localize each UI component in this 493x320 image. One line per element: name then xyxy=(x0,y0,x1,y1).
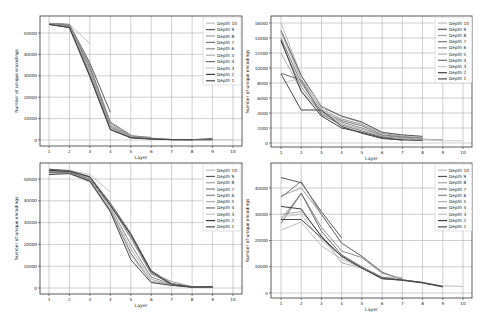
x-tick-label: 4 xyxy=(109,149,112,154)
y-tick-label: 4000 xyxy=(257,111,268,116)
x-tick-label: 10 xyxy=(460,301,466,306)
legend-label: Depth 2 xyxy=(449,218,466,223)
y-tick-label: 40000 xyxy=(255,186,269,191)
legend-label: Depth 10 xyxy=(217,21,237,26)
legend-label: Depth 10 xyxy=(217,168,237,173)
legend-label: Depth 7 xyxy=(449,39,466,44)
y-tick-label: 0 xyxy=(34,138,37,143)
legend-label: Depth 3 xyxy=(217,212,234,217)
x-tick-label: 1 xyxy=(48,149,51,154)
y-tick-label: 10000 xyxy=(24,264,38,269)
x-tick-label: 2 xyxy=(68,149,71,154)
legend-label: Depth 2 xyxy=(449,70,466,75)
legend-label: Depth 9 xyxy=(449,174,466,179)
legend: Depth 10Depth 9Depth 8Depth 7Depth 6Dept… xyxy=(435,17,472,83)
y-tick-label: 20000 xyxy=(255,238,269,243)
legend: Depth 10Depth 9Depth 8Depth 7Depth 6Dept… xyxy=(203,17,241,85)
legend-label: Depth 3 xyxy=(217,66,234,71)
legend-label: Depth 6 xyxy=(217,46,234,51)
y-tick-label: 12000 xyxy=(255,51,269,56)
x-tick-label: 7 xyxy=(401,301,404,306)
x-tick-label: 5 xyxy=(361,150,364,155)
legend-label: Depth 7 xyxy=(217,187,234,192)
legend-label: Depth 1 xyxy=(449,224,466,229)
x-tick-label: 5 xyxy=(361,301,364,306)
x-tick-label: 6 xyxy=(150,297,153,302)
x-axis-label: Layer xyxy=(365,156,378,161)
y-tick-label: 20000 xyxy=(24,95,38,100)
x-tick-labels: 12345678910 xyxy=(48,294,236,302)
y-tick-label: 0 xyxy=(265,141,268,146)
x-tick-label: 10 xyxy=(230,149,236,154)
y-tick-label: 50000 xyxy=(24,31,38,36)
y-tick-label: 20000 xyxy=(24,242,38,247)
y-tick-labels: 01000020000300004000050000 xyxy=(24,177,40,291)
legend-label: Depth 9 xyxy=(449,27,466,32)
legend-label: Depth 4 xyxy=(449,205,466,210)
y-tick-label: 30000 xyxy=(255,212,269,217)
series-depth-1 xyxy=(49,24,192,139)
x-tick-label: 7 xyxy=(170,297,173,302)
legend-label: Depth 6 xyxy=(449,45,466,50)
y-tick-label: 50000 xyxy=(24,177,38,182)
y-tick-label: 2000 xyxy=(257,126,268,131)
x-tick-label: 9 xyxy=(211,297,214,302)
x-tick-label: 1 xyxy=(280,150,283,155)
legend-label: Depth 10 xyxy=(449,21,469,26)
x-tick-label: 9 xyxy=(211,149,214,154)
x-tick-label: 9 xyxy=(441,301,444,306)
x-tick-label: 3 xyxy=(320,301,323,306)
x-tick-label: 7 xyxy=(401,150,404,155)
y-tick-label: 10000 xyxy=(24,116,38,121)
x-tick-label: 4 xyxy=(340,150,343,155)
legend-label: Depth 5 xyxy=(449,52,466,57)
y-tick-label: 6000 xyxy=(257,96,268,101)
x-tick-label: 3 xyxy=(89,297,92,302)
legend-label: Depth 1 xyxy=(449,76,466,81)
y-axis-label: Number of unique encodings xyxy=(245,49,250,113)
x-tick-label: 6 xyxy=(150,149,153,154)
legend-label: Depth 5 xyxy=(449,199,466,204)
x-tick-label: 8 xyxy=(191,149,194,154)
figure-grid: 1234567891001000020000300004000050000Lay… xyxy=(0,0,493,320)
y-tick-labels: 01000020000300004000050000 xyxy=(24,31,40,143)
legend-label: Depth 1 xyxy=(217,78,234,83)
y-tick-label: 0 xyxy=(265,291,268,296)
x-tick-labels: 12345678910 xyxy=(280,147,466,155)
legend-label: Depth 2 xyxy=(217,218,234,223)
y-axis-label: Number of unique encodings xyxy=(14,196,19,260)
y-tick-label: 40000 xyxy=(24,198,38,203)
x-tick-label: 3 xyxy=(89,149,92,154)
legend-label: Depth 7 xyxy=(449,187,466,192)
x-tick-label: 9 xyxy=(441,150,444,155)
x-tick-label: 3 xyxy=(320,150,323,155)
x-tick-label: 4 xyxy=(109,297,112,302)
chart-bottom-left: 1234567891001000020000300004000050000Lay… xyxy=(14,163,242,308)
y-tick-label: 30000 xyxy=(24,220,38,225)
y-tick-label: 14000 xyxy=(255,36,269,41)
x-tick-labels: 12345678910 xyxy=(48,146,236,154)
x-axis-label: Layer xyxy=(365,307,378,312)
x-axis-label: Layer xyxy=(135,303,148,308)
legend-label: Depth 6 xyxy=(217,193,234,198)
legend: Depth 10Depth 9Depth 8Depth 7Depth 6Dept… xyxy=(435,164,472,231)
x-axis-label: Layer xyxy=(135,155,148,160)
legend-label: Depth 3 xyxy=(449,64,466,69)
y-axis-label: Number of unique encodings xyxy=(14,49,19,113)
legend-label: Depth 8 xyxy=(449,180,466,185)
x-tick-label: 5 xyxy=(129,297,132,302)
x-tick-label: 8 xyxy=(421,301,424,306)
y-tick-label: 8000 xyxy=(257,81,268,86)
legend-label: Depth 9 xyxy=(217,174,234,179)
x-tick-label: 10 xyxy=(460,150,466,155)
y-tick-label: 10000 xyxy=(255,66,269,71)
series-depth-5 xyxy=(49,24,192,140)
chart-top-right: 1234567891002000400060008000100001200014… xyxy=(245,16,472,161)
x-tick-label: 10 xyxy=(230,297,236,302)
x-tick-label: 2 xyxy=(300,301,303,306)
x-tick-label: 6 xyxy=(381,150,384,155)
x-tick-label: 4 xyxy=(340,301,343,306)
y-tick-label: 30000 xyxy=(24,73,38,78)
series-depth-10 xyxy=(281,222,463,286)
legend-label: Depth 8 xyxy=(217,34,234,39)
